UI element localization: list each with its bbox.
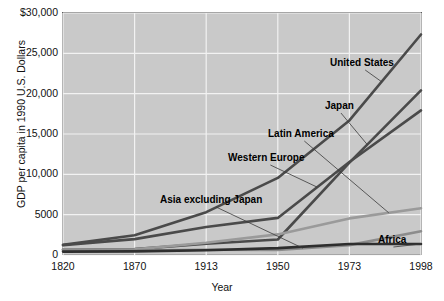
series-line — [63, 110, 421, 245]
gdp-per-capita-line-chart: GDP per capita in 1990 U.S. Dollars 0500… — [0, 0, 444, 301]
series-label-asia-excluding-japan: Asia excluding Japan — [160, 194, 262, 205]
series-line — [63, 244, 421, 252]
leader-line — [365, 70, 381, 82]
series-lines-layer — [0, 0, 444, 301]
series-line — [63, 90, 421, 249]
leader-line — [304, 141, 388, 213]
series-label-latin-america: Latin America — [268, 128, 334, 139]
gridlines — [63, 13, 421, 255]
series-label-japan: Japan — [325, 100, 354, 111]
leader-line — [341, 113, 367, 145]
series-label-africa: Africa — [378, 234, 406, 245]
series-label-united-states: United States — [330, 57, 394, 68]
x-axis-title: Year — [0, 281, 444, 293]
series-label-western-europe: Western Europe — [228, 152, 305, 163]
